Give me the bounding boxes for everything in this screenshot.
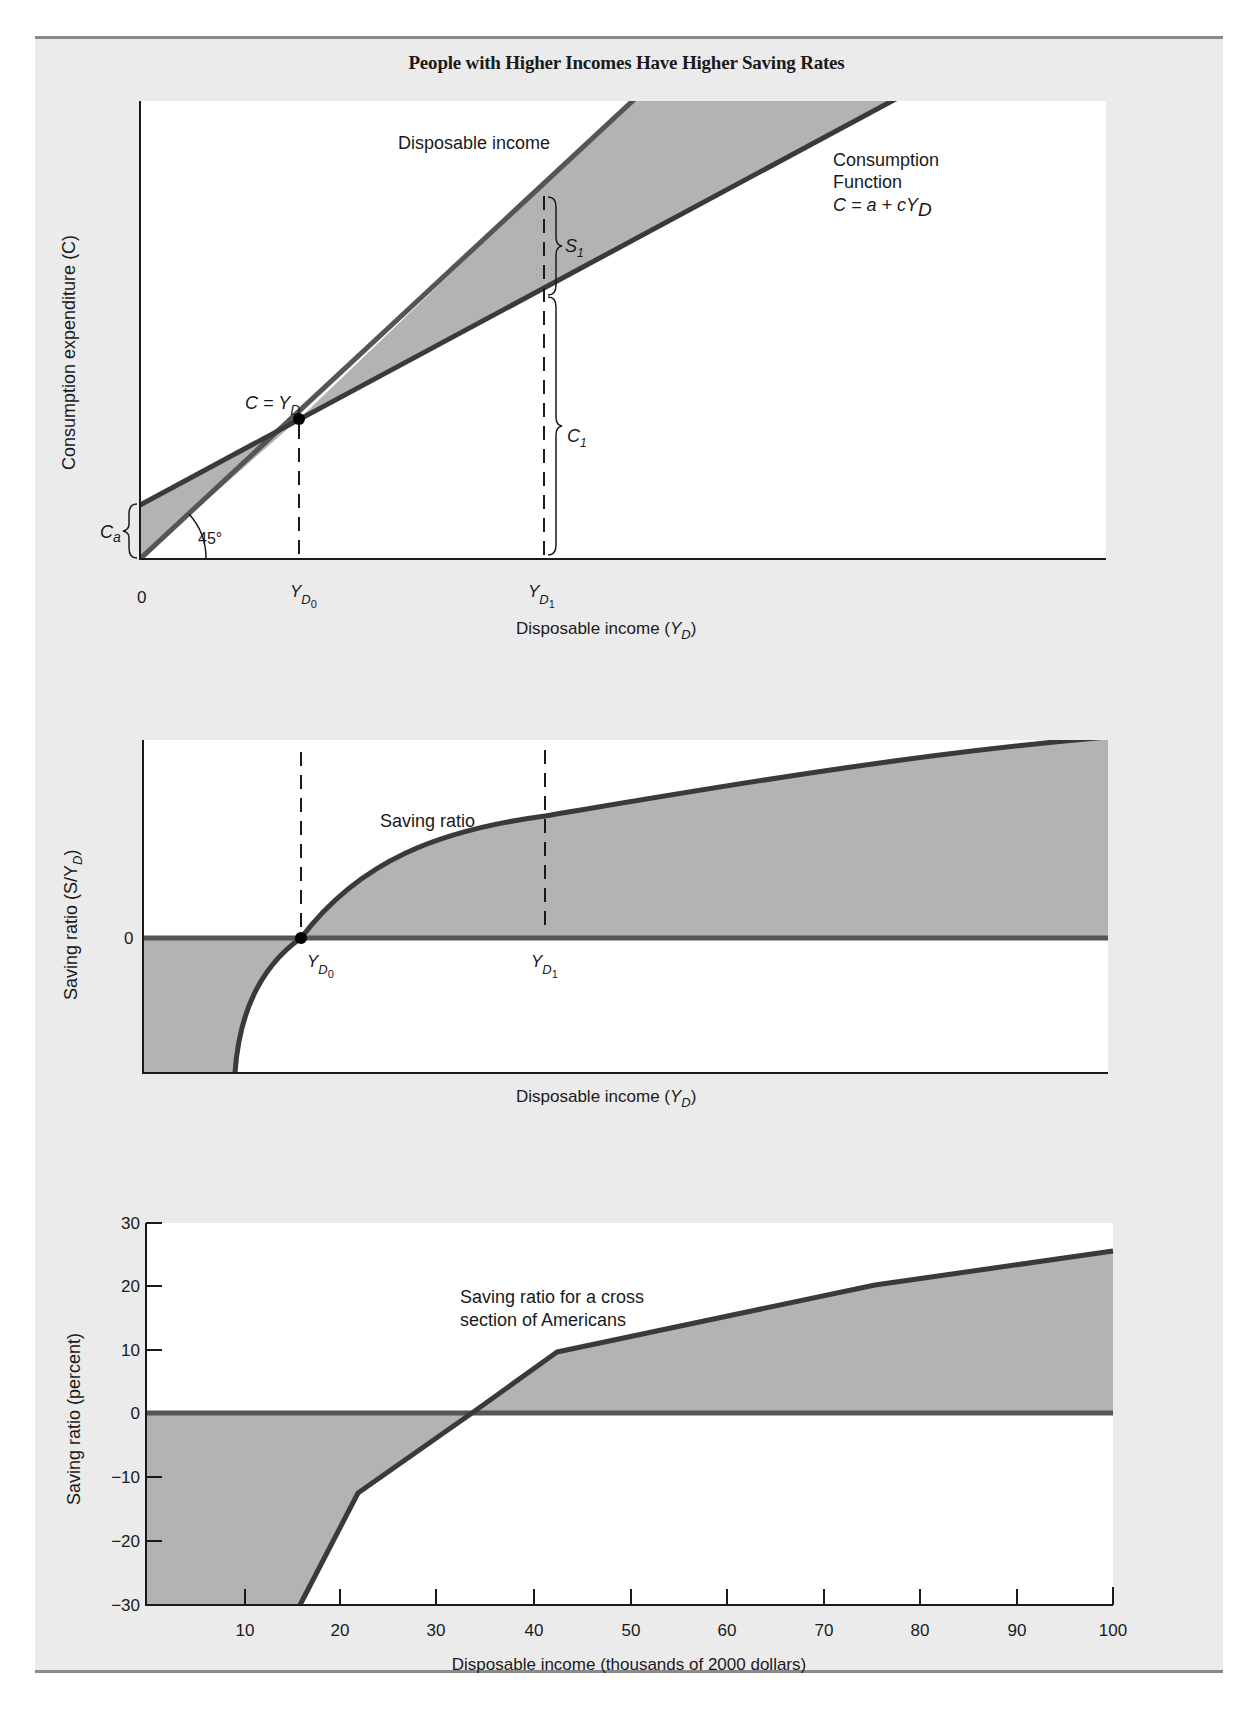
top-y-axis-title: Consumption expenditure (C) xyxy=(59,235,79,470)
brace-ca-label: Ca xyxy=(100,522,121,545)
saving-ratio-label: Saving ratio xyxy=(380,811,475,831)
charts-canvas: Disposable income Consumption Function C… xyxy=(0,0,1253,1730)
y-tick-label: 0 xyxy=(131,1404,140,1423)
bottom-x-axis-title: Disposable income (thousands of 2000 dol… xyxy=(452,1655,806,1674)
x-tick-label: 40 xyxy=(525,1621,544,1640)
y-tick-label: −30 xyxy=(111,1596,140,1615)
consumption-label-line1: Consumption xyxy=(833,150,939,170)
tick-yd1: YD1 xyxy=(528,582,555,610)
y-tick-label: 10 xyxy=(121,1341,140,1360)
y-tick-label: 20 xyxy=(121,1277,140,1296)
disposable-income-label: Disposable income xyxy=(398,133,550,153)
top-x-axis-title: Disposable income (YD) xyxy=(516,619,696,642)
y-tick-label: −20 xyxy=(111,1532,140,1551)
annotation-line1: Saving ratio for a cross xyxy=(460,1287,644,1307)
x-tick-label: 30 xyxy=(427,1621,446,1640)
consumption-chart: Disposable income Consumption Function C… xyxy=(59,94,1106,642)
origin-label: 0 xyxy=(137,588,146,607)
bottom-y-axis-title: Saving ratio (percent) xyxy=(64,1333,84,1505)
x-tick-label: 20 xyxy=(331,1621,350,1640)
x-tick-label: 10 xyxy=(236,1621,255,1640)
middle-y-axis-title: Saving ratio (S/YD) xyxy=(61,850,85,1000)
x-tick-label: 60 xyxy=(718,1621,737,1640)
breakeven-point xyxy=(295,932,307,944)
x-tick-label: 90 xyxy=(1008,1621,1027,1640)
x-tick-label: 50 xyxy=(622,1621,641,1640)
consumption-label-line2: Function xyxy=(833,172,902,192)
middle-x-axis-title: Disposable income (YD) xyxy=(516,1087,696,1110)
annotation-line2: section of Americans xyxy=(460,1310,626,1330)
angle-label: 45° xyxy=(198,530,222,547)
x-tick-label: 70 xyxy=(815,1621,834,1640)
x-tick-label: 100 xyxy=(1099,1621,1127,1640)
tick-yd0: YD0 xyxy=(290,582,317,610)
cross-section-chart: 30 20 10 0 −10 −20 −30 10 20 30 40 50 60… xyxy=(64,1214,1127,1674)
brace-ca-icon xyxy=(123,504,137,558)
y-tick-label: 30 xyxy=(121,1214,140,1233)
zero-label: 0 xyxy=(124,929,133,948)
x-tick-label: 80 xyxy=(911,1621,930,1640)
saving-ratio-chart: Saving ratio 0 YD0 YD1 Disposable income… xyxy=(61,737,1108,1110)
y-tick-label: −10 xyxy=(111,1468,140,1487)
